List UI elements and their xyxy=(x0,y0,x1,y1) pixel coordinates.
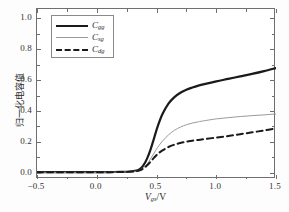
capacitance-voltage-chart: Cgg Csg Cdg −0.50.00.51.01.5 xyxy=(0,0,289,212)
x-tick-minor xyxy=(67,177,68,180)
x-tick-minor xyxy=(246,9,247,12)
legend-item-csg: Csg xyxy=(56,31,109,43)
x-tick-major xyxy=(97,175,98,179)
x-tick-label: 1.5 xyxy=(269,181,281,191)
y-tick-minor xyxy=(37,34,40,35)
curve-cdg xyxy=(37,128,276,172)
y-tick-major xyxy=(270,18,274,19)
x-tick-major xyxy=(97,9,98,13)
y-tick-major xyxy=(270,111,274,112)
x-tick-major xyxy=(276,175,277,179)
legend: Cgg Csg Cdg xyxy=(51,15,114,58)
x-tick-minor xyxy=(127,9,128,12)
legend-label-cgg: Cgg xyxy=(92,20,105,30)
y-tick-minor xyxy=(37,65,40,66)
legend-swatch-solid-icon xyxy=(56,20,88,30)
legend-swatch-thin-icon xyxy=(56,32,88,42)
x-tick-major xyxy=(37,9,38,13)
y-tick-major xyxy=(37,80,41,81)
y-tick-minor xyxy=(272,65,275,66)
y-tick-minor xyxy=(272,157,275,158)
y-tick-label: 1.0 xyxy=(12,12,32,22)
y-tick-major xyxy=(37,111,41,112)
x-tick-major xyxy=(157,9,158,13)
plot-area: Cgg Csg Cdg xyxy=(36,8,275,178)
y-tick-major xyxy=(270,49,274,50)
y-tick-minor xyxy=(37,157,40,158)
x-axis-title: Vgs/V xyxy=(36,192,275,202)
legend-swatch-dashed-icon xyxy=(56,44,88,54)
x-tick-minor xyxy=(246,177,247,180)
x-tick-minor xyxy=(67,9,68,12)
y-tick-minor xyxy=(272,126,275,127)
y-axis-title: 归一化电容值 xyxy=(13,45,26,155)
x-tick-minor xyxy=(186,177,187,180)
y-tick-major xyxy=(37,142,41,143)
legend-label-cdg: Cdg xyxy=(92,44,105,54)
y-tick-major xyxy=(270,142,274,143)
curve-cgg xyxy=(37,68,276,172)
y-tick-minor xyxy=(37,126,40,127)
legend-item-cdg: Cdg xyxy=(56,43,109,55)
y-tick-minor xyxy=(37,96,40,97)
y-tick-minor xyxy=(272,96,275,97)
y-tick-minor xyxy=(272,34,275,35)
x-tick-major xyxy=(216,9,217,13)
x-tick-major xyxy=(37,175,38,179)
x-tick-major xyxy=(216,175,217,179)
x-tick-minor xyxy=(127,177,128,180)
y-tick-major xyxy=(37,18,41,19)
x-tick-major xyxy=(157,175,158,179)
y-tick-major xyxy=(270,80,274,81)
x-tick-minor xyxy=(186,9,187,12)
x-tick-label: −0.5 xyxy=(27,181,44,191)
x-tick-major xyxy=(276,9,277,13)
y-tick-major xyxy=(270,173,274,174)
x-tick-label: 1.0 xyxy=(209,181,221,191)
x-tick-label: 0.0 xyxy=(90,181,102,191)
legend-label-csg: Csg xyxy=(92,32,104,42)
x-tick-label: 0.5 xyxy=(150,181,162,191)
curve-csg xyxy=(37,114,276,172)
y-tick-major xyxy=(37,49,41,50)
legend-item-cgg: Cgg xyxy=(56,19,109,31)
y-tick-label: 0.0 xyxy=(12,167,32,177)
y-tick-major xyxy=(37,173,41,174)
